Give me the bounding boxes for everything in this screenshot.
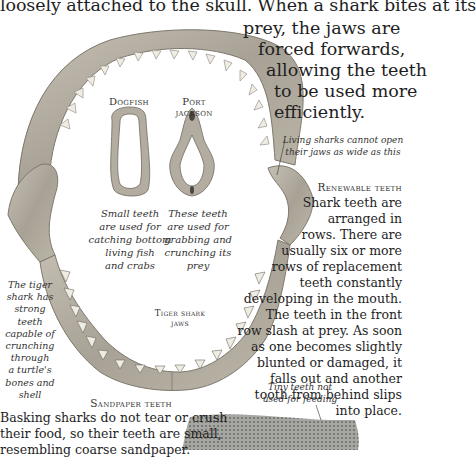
dogfish-label: Dogfish: [103, 96, 155, 107]
tiger-shark-label: Tiger shark jaws: [130, 308, 230, 328]
living-sharks-annotation: Living sharks cannot open their jaws as …: [282, 135, 404, 158]
port-jackson-label: Port jackson: [162, 96, 226, 118]
tiny-teeth-annotation: Tiny teeth not used for feeding: [255, 382, 345, 405]
intro-line-6: efficiently.: [274, 101, 365, 123]
port-jackson-jaw: [170, 108, 215, 196]
intro-line-5: to be used more: [274, 80, 417, 102]
tiger-shark-caption: The tiger shark has strong teeth capable…: [2, 279, 58, 401]
sandpaper-teeth-section: Sandpaper teeth Basking sharks do not te…: [0, 396, 172, 458]
intro-line-4: allowing the teeth: [266, 59, 427, 81]
intro-line-2: prey, the jaws are: [243, 17, 400, 39]
sandpaper-teeth-heading: Sandpaper teeth: [0, 396, 172, 410]
renewable-teeth-heading: Renewable teeth: [222, 180, 402, 195]
intro-line-3: forced forwards,: [258, 38, 405, 60]
intro-line-1: loosely attached to the skull. When a sh…: [0, 0, 404, 16]
dogfish-jaw: [111, 107, 150, 196]
